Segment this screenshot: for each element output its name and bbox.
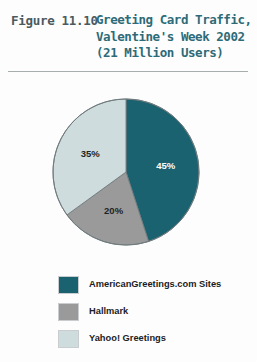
pie-chart: 45% 20% 35% bbox=[0, 78, 257, 268]
pie-slices bbox=[53, 99, 199, 245]
figure-title-line-3: (21 Million Users) bbox=[96, 45, 254, 62]
figure-header: Figure 11.10 Greeting Card Traffic, Vale… bbox=[0, 0, 257, 72]
figure-title-line-1: Greeting Card Traffic, bbox=[96, 12, 254, 29]
header-divider bbox=[8, 71, 248, 72]
pie-label-american-greetings: 45% bbox=[156, 160, 176, 171]
pie-chart-svg: 45% 20% 35% bbox=[0, 78, 257, 268]
figure-title: Greeting Card Traffic, Valentine's Week … bbox=[96, 12, 254, 62]
legend-label-american-greetings: AmericanGreetings.com Sites bbox=[89, 279, 221, 289]
legend-swatch-hallmark bbox=[58, 303, 79, 321]
legend-swatch-yahoo bbox=[58, 330, 79, 348]
pie-label-hallmark: 20% bbox=[104, 205, 124, 216]
figure-number: Figure 11.10 bbox=[11, 13, 98, 28]
legend-swatch-american-greetings bbox=[58, 276, 79, 294]
legend-label-hallmark: Hallmark bbox=[89, 306, 128, 316]
figure-container: Figure 11.10 Greeting Card Traffic, Vale… bbox=[0, 0, 257, 362]
legend-label-yahoo: Yahoo! Greetings bbox=[89, 333, 166, 343]
chart-legend: AmericanGreetings.com Sites Hallmark Yah… bbox=[0, 272, 257, 362]
pie-label-yahoo: 35% bbox=[81, 148, 101, 159]
figure-title-line-2: Valentine's Week 2002 bbox=[96, 29, 254, 46]
